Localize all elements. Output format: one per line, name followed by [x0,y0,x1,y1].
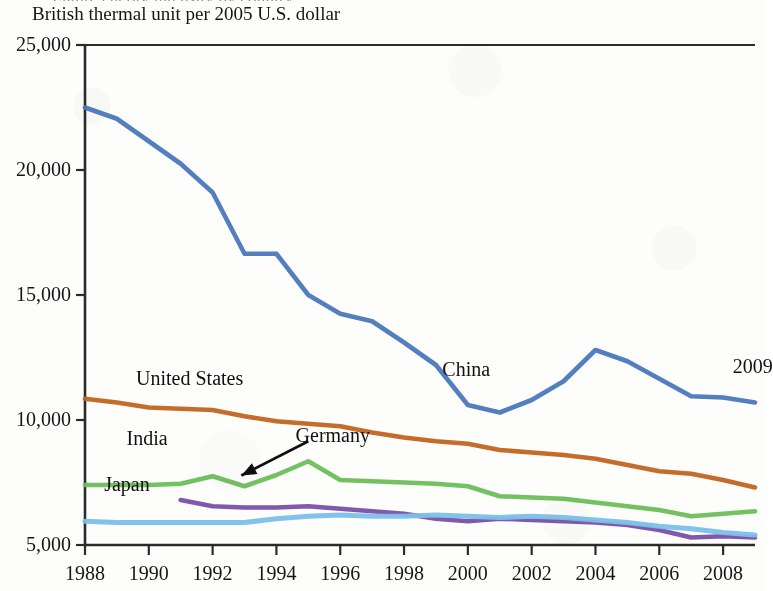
y-tick-label: 20,000 [16,159,71,179]
y-tick-label: 10,000 [16,409,71,429]
annotation-2009: 2009 [733,355,773,377]
series-line-united-states [85,399,755,488]
series-line-japan [85,515,755,535]
annotation-india: India [126,427,167,449]
y-tick-label: 5,000 [26,534,71,554]
annotation-united-states: United States [136,367,243,389]
y-tick-label: 25,000 [16,34,71,54]
y-tick-label: 15,000 [16,284,71,304]
annotation-china: China [442,358,490,380]
annotation-japan: Japan [104,473,150,495]
x-tick-label: 2008 [683,563,763,583]
annotation-germany: Germany [296,424,370,446]
y-axis-ticks [76,45,85,545]
x-axis-ticks [85,545,723,555]
germany-pointer-arrow [241,441,308,475]
